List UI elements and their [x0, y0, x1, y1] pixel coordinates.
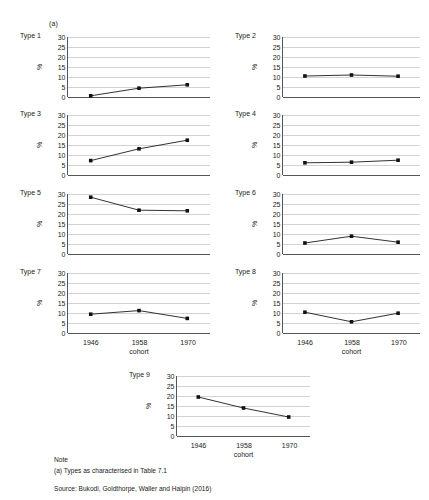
y-tick-label: 25 — [52, 280, 66, 287]
series-line — [68, 194, 210, 254]
plot-area: 051015202530 — [67, 194, 210, 254]
data-point-marker — [303, 310, 307, 314]
plot-area: 051015202530 — [282, 115, 420, 175]
y-tick-label: 5 — [161, 423, 175, 430]
y-tick-label: 15 — [52, 142, 66, 149]
series-line — [283, 273, 420, 333]
y-tick-label: 5 — [267, 241, 281, 248]
x-tick-label: 1946 — [297, 339, 313, 347]
plot-area: 051015202530194619581970cohort — [282, 273, 420, 333]
panel-type-2: Type 2%051015202530 — [282, 37, 420, 97]
data-point-marker — [303, 241, 307, 245]
source-line: Source: Bukodi, Goldthorpe, Waller and H… — [54, 484, 211, 493]
series-line — [177, 376, 310, 436]
x-axis-line — [68, 175, 210, 176]
y-tick-label: 10 — [267, 310, 281, 317]
data-point-marker — [137, 309, 141, 313]
y-tick-label: 30 — [52, 34, 66, 41]
y-tick-label: 30 — [52, 191, 66, 198]
y-tick-label: 0 — [52, 251, 66, 258]
small-multiples-figure: (a) Type 1%051015202530Type 2%0510152025… — [0, 0, 429, 500]
x-tick-label: 1970 — [180, 339, 196, 347]
data-point-marker — [89, 159, 93, 163]
data-point-marker — [185, 209, 189, 213]
x-tick-label: 1970 — [391, 339, 407, 347]
y-tick-label: 30 — [267, 34, 281, 41]
panel-title: Type 6 — [235, 189, 256, 197]
y-tick-label: 20 — [267, 211, 281, 218]
x-tick-label: 1958 — [132, 339, 148, 347]
y-tick-label: 15 — [267, 64, 281, 71]
y-tick-label: 20 — [267, 132, 281, 139]
series-line — [283, 115, 420, 175]
data-point-marker — [303, 161, 307, 165]
x-axis-title: cohort — [129, 348, 148, 356]
y-tick-label: 20 — [267, 290, 281, 297]
data-point-marker — [242, 406, 246, 410]
series-line — [68, 37, 210, 97]
data-point-marker — [196, 395, 200, 399]
y-tick-label: 0 — [267, 330, 281, 337]
data-point-marker — [137, 208, 141, 212]
y-tick-label: 0 — [267, 94, 281, 101]
y-tick-label: 15 — [161, 403, 175, 410]
y-tick-label: 10 — [161, 413, 175, 420]
y-tick-label: 20 — [52, 54, 66, 61]
panel-title: Type 5 — [20, 189, 41, 197]
y-axis-label: % — [251, 221, 259, 227]
data-point-marker — [89, 195, 93, 199]
y-tick-label: 30 — [267, 270, 281, 277]
y-tick-label: 25 — [52, 122, 66, 129]
x-axis-line — [283, 333, 420, 334]
panel-type-8: Type 8%051015202530194619581970cohort — [282, 273, 420, 333]
plot-area: 051015202530 — [67, 37, 210, 97]
panel-title: Type 9 — [129, 371, 150, 379]
panel-title: Type 7 — [20, 268, 41, 276]
y-tick-label: 30 — [52, 270, 66, 277]
y-axis-label: % — [36, 221, 44, 227]
data-point-marker — [303, 74, 307, 78]
plot-area: 051015202530194619581970cohort — [67, 273, 210, 333]
data-point-marker — [396, 311, 400, 315]
y-tick-label: 15 — [52, 221, 66, 228]
panel-type-7: Type 7%051015202530194619581970cohort — [67, 273, 210, 333]
data-point-marker — [287, 415, 291, 419]
y-tick-label: 10 — [52, 231, 66, 238]
y-tick-label: 30 — [161, 373, 175, 380]
y-axis-label: % — [145, 403, 153, 409]
y-tick-label: 0 — [52, 330, 66, 337]
y-tick-label: 10 — [267, 74, 281, 81]
panel-title: Type 3 — [20, 110, 41, 118]
y-tick-label: 15 — [267, 142, 281, 149]
plot-area: 051015202530 — [282, 37, 420, 97]
y-tick-label: 25 — [161, 383, 175, 390]
y-tick-label: 5 — [52, 241, 66, 248]
series-line — [283, 37, 420, 97]
y-axis-label: % — [36, 142, 44, 148]
y-tick-label: 15 — [52, 300, 66, 307]
data-point-marker — [396, 240, 400, 244]
data-point-marker — [185, 83, 189, 87]
panel-type-3: Type 3%051015202530 — [67, 115, 210, 175]
data-point-marker — [89, 312, 93, 316]
series-line — [68, 115, 210, 175]
y-tick-label: 20 — [161, 393, 175, 400]
series-line — [283, 194, 420, 254]
y-tick-label: 5 — [267, 320, 281, 327]
y-tick-label: 0 — [267, 172, 281, 179]
y-tick-label: 20 — [52, 132, 66, 139]
panel-type-6: Type 6%051015202530 — [282, 194, 420, 254]
y-axis-label: % — [36, 64, 44, 70]
x-axis-line — [177, 436, 310, 437]
x-axis-line — [283, 97, 420, 98]
y-tick-label: 5 — [267, 84, 281, 91]
y-tick-label: 10 — [52, 74, 66, 81]
y-tick-label: 10 — [52, 152, 66, 159]
x-axis-line — [68, 254, 210, 255]
data-point-marker — [137, 86, 141, 90]
panel-type-5: Type 5%051015202530 — [67, 194, 210, 254]
panel-type-9: Type 9%051015202530194619581970cohort — [176, 376, 310, 436]
panel-type-1: Type 1%051015202530 — [67, 37, 210, 97]
x-tick-label: 1958 — [344, 339, 360, 347]
y-tick-label: 0 — [161, 433, 175, 440]
